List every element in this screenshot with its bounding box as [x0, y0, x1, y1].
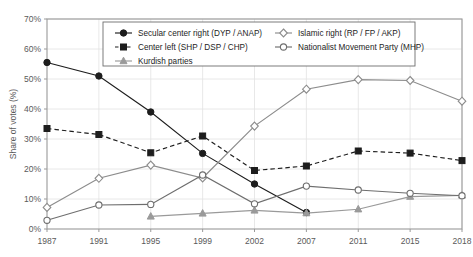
- data-point-marker: [251, 201, 257, 207]
- x-axis-tick-label: 2018: [453, 236, 472, 246]
- data-point-marker: [406, 77, 414, 85]
- x-axis-tick-label: 1991: [89, 236, 108, 246]
- data-point-marker: [303, 163, 309, 169]
- y-axis-tick-label: 0%: [29, 224, 42, 234]
- x-axis-tick-label: 2015: [401, 236, 420, 246]
- legend-item: Secular center right (DYP / ANAP): [115, 29, 262, 38]
- y-axis-tick-label: 70%: [24, 14, 41, 24]
- data-point-marker: [121, 44, 127, 50]
- data-point-marker: [199, 150, 205, 156]
- y-axis-tick-label: 40%: [24, 104, 41, 114]
- y-axis-tick-label: 60%: [24, 44, 41, 54]
- legend-label: Secular center right (DYP / ANAP): [138, 29, 262, 38]
- series-0: [44, 59, 310, 215]
- data-point-marker: [44, 59, 50, 65]
- data-point-marker: [407, 190, 413, 196]
- chart-legend: Secular center right (DYP / ANAP)Islamic…: [103, 22, 424, 66]
- data-point-marker: [355, 148, 361, 154]
- data-point-marker: [303, 85, 311, 93]
- data-point-marker: [120, 30, 126, 36]
- data-point-marker: [354, 76, 362, 84]
- data-point-marker: [280, 44, 286, 50]
- data-point-marker: [251, 207, 258, 214]
- data-point-marker: [148, 150, 154, 156]
- data-point-marker: [355, 187, 361, 193]
- data-point-marker: [147, 161, 155, 169]
- data-point-marker: [459, 158, 465, 164]
- data-point-marker: [252, 168, 258, 174]
- legend-label: Kurdish parties: [138, 57, 193, 66]
- data-point-marker: [458, 97, 466, 105]
- data-point-marker: [43, 203, 51, 211]
- y-axis-tick-label: 50%: [24, 74, 41, 84]
- y-axis-title: Share of votes (%): [8, 89, 18, 160]
- data-point-marker: [303, 183, 309, 189]
- line-chart: 0%10%20%30%40%50%60%70%19871991199519992…: [0, 0, 473, 257]
- chart-container: 0%10%20%30%40%50%60%70%19871991199519992…: [0, 0, 473, 257]
- y-axis-tick-label: 20%: [24, 164, 41, 174]
- data-point-marker: [459, 193, 465, 199]
- legend-label: Center left (SHP / DSP / CHP): [138, 43, 248, 52]
- x-axis-tick-label: 1987: [38, 236, 57, 246]
- y-axis-tick-label: 30%: [24, 134, 41, 144]
- data-point-marker: [148, 109, 154, 115]
- data-point-marker: [251, 181, 257, 187]
- data-point-marker: [200, 172, 206, 178]
- legend-item: Nationalist Movement Party (MHP): [275, 43, 424, 52]
- y-axis-tick-label: 10%: [24, 194, 41, 204]
- data-point-marker: [96, 73, 102, 79]
- data-point-marker: [407, 150, 413, 156]
- x-axis-tick-label: 2007: [297, 236, 316, 246]
- x-axis-tick-label: 2011: [349, 236, 368, 246]
- data-point-marker: [96, 132, 102, 138]
- legend-label: Nationalist Movement Party (MHP): [298, 43, 424, 52]
- x-axis-tick-label: 2002: [245, 236, 264, 246]
- data-point-marker: [44, 126, 50, 132]
- legend-label: Islamic right (RP / FP / AKP): [298, 29, 401, 38]
- data-point-marker: [96, 202, 102, 208]
- x-axis-tick-label: 1995: [141, 236, 160, 246]
- data-point-marker: [148, 201, 154, 207]
- data-point-marker: [95, 174, 103, 182]
- data-point-marker: [44, 217, 50, 223]
- x-axis-tick-label: 1999: [193, 236, 212, 246]
- data-point-marker: [200, 133, 206, 139]
